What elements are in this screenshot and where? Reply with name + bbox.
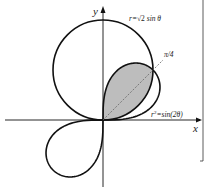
circle-equation-label: r=√2 sin θ [129,14,161,23]
y-axis-label: y [92,5,98,17]
polar-diagram: y x r=√2 sin θ π/4 r2=sin(2θ) [0,0,206,189]
y-axis-arrow-icon [101,6,106,13]
lemniscate-equation-label: r2=sin(2θ) [151,110,183,119]
x-axis-label: x [192,122,198,134]
pi-over-4-label: π/4 [164,50,174,59]
